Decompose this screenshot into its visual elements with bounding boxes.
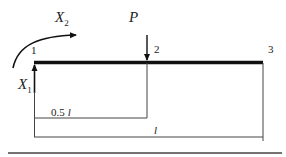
force-label: P xyxy=(128,9,138,25)
reaction-label: X1 xyxy=(17,76,32,95)
dim-full-label: l xyxy=(154,124,157,136)
beam-diagram: X2 P 1 2 3 X1 0.5l l xyxy=(0,0,286,157)
node-3-label: 3 xyxy=(268,43,274,55)
dim-half-label: 0.5l xyxy=(51,106,71,118)
node-1-label: 1 xyxy=(31,44,37,56)
node-2-label: 2 xyxy=(154,43,160,55)
moment-label: X2 xyxy=(54,9,69,28)
